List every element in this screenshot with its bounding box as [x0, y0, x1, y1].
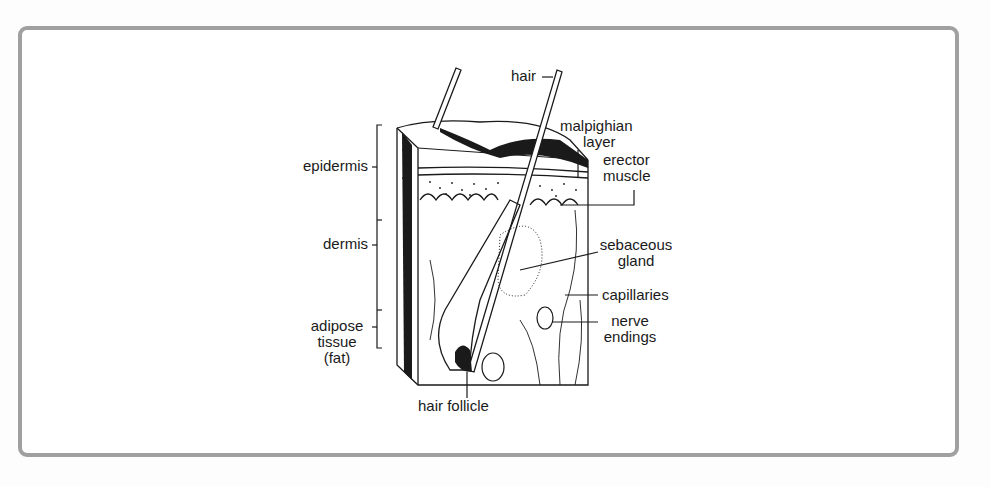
skin-cross-section-diagram: [0, 0, 991, 487]
hair-shaft-main: [468, 70, 562, 372]
leader-erector: [560, 190, 634, 205]
label-malpighian: malpighian: [560, 118, 633, 134]
nerve-ending-shape: [537, 307, 553, 329]
pacinian-corpuscle-shape: [482, 353, 504, 381]
label-sebaceous: sebaceous: [598, 237, 674, 253]
label-nerve: nerve: [598, 313, 662, 329]
malpighian-layer-shade: [440, 128, 588, 168]
label-capillaries: capillaries: [602, 287, 669, 303]
hair-shaft-left: [433, 68, 461, 129]
label-gland: gland: [598, 253, 674, 269]
side-dermis-shade: [402, 132, 412, 380]
layer-bracket: [372, 125, 382, 348]
label-erector: erector: [603, 152, 650, 168]
label-tissue: tissue: [306, 334, 368, 350]
label-hair-follicle: hair follicle: [418, 398, 489, 414]
label-epidermis: epidermis: [282, 158, 368, 174]
label-adipose: adipose: [306, 318, 368, 334]
label-hair: hair: [511, 68, 536, 84]
label-dermis: dermis: [282, 236, 368, 252]
hair-bulb: [455, 345, 472, 372]
label-endings: endings: [598, 329, 662, 345]
label-fat: (fat): [306, 350, 368, 366]
label-muscle: muscle: [603, 168, 651, 184]
label-layer: layer: [583, 134, 616, 150]
leader-sebaceous: [520, 252, 598, 270]
